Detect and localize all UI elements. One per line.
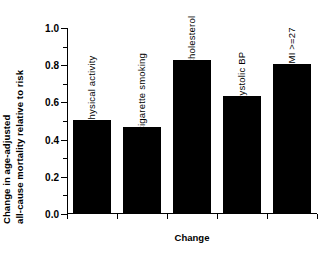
bar-category-label: Physical activity	[86, 56, 97, 126]
y-tick-minor	[63, 195, 67, 196]
bar	[73, 120, 111, 213]
y-tick-label: 0.8	[45, 60, 59, 71]
y-tick-minor	[63, 121, 67, 122]
x-axis-title: Change	[67, 232, 317, 243]
plot-area: 1.00.80.60.40.20.0Physical activityCigar…	[67, 28, 316, 213]
x-tick	[217, 214, 218, 219]
x-tick	[267, 214, 268, 219]
bar-chart-figure: Change in age-adjusted all-cause mortali…	[0, 0, 324, 257]
y-axis-title-line-1: Change in age-adjusted	[1, 12, 13, 224]
bar	[123, 127, 161, 213]
y-tick-minor	[63, 84, 67, 85]
y-tick-major	[61, 65, 67, 66]
y-tick-major	[61, 28, 67, 29]
y-tick-label: 0.0	[45, 209, 59, 220]
y-axis-line	[67, 28, 68, 214]
y-tick-label: 0.4	[45, 134, 59, 145]
y-tick-label: 0.2	[45, 171, 59, 182]
x-tick	[67, 214, 68, 219]
y-tick-major	[61, 102, 67, 103]
bar	[273, 64, 311, 213]
y-axis-title: Change in age-adjusted all-cause mortali…	[0, 0, 34, 230]
y-tick-minor	[63, 158, 67, 159]
bar-category-label: Cigarette smoking	[136, 53, 147, 133]
x-tick	[117, 214, 118, 219]
y-tick-label: 0.6	[45, 97, 59, 108]
x-tick	[317, 214, 318, 219]
bar	[223, 96, 261, 213]
bar	[173, 60, 211, 213]
bar-category-label: Systolic BP	[236, 52, 247, 102]
y-tick-minor	[63, 47, 67, 48]
y-tick-major	[61, 177, 67, 178]
bar-category-label: Cholesterol	[186, 16, 197, 66]
bar-category-label: BMI >=27	[286, 27, 297, 70]
y-tick-major	[61, 140, 67, 141]
y-tick-label: 1.0	[45, 23, 59, 34]
y-axis-title-line-2: all-cause mortality relative to risk	[14, 12, 26, 224]
x-axis-line	[67, 213, 317, 214]
x-tick	[167, 214, 168, 219]
